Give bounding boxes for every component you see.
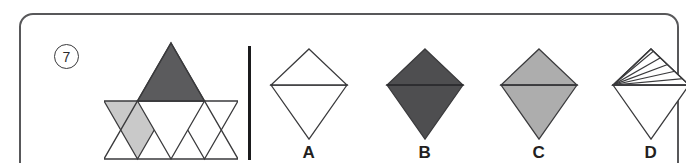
option-b-label: B <box>373 143 477 163</box>
answer-option-a[interactable]: A <box>257 43 361 163</box>
option-d-kite-shape <box>599 43 686 143</box>
option-c-bottom-triangle <box>501 85 577 139</box>
option-c-kite-shape <box>487 43 591 143</box>
option-a-kite-shape <box>257 43 361 143</box>
answer-option-b[interactable]: B <box>373 43 477 163</box>
answer-option-c[interactable]: C <box>487 43 591 163</box>
stimulus-cell-top <box>138 43 205 101</box>
option-a-bottom-triangle <box>271 85 347 139</box>
option-b-top-triangle <box>387 49 463 85</box>
section-divider <box>248 46 251 160</box>
stimulus-figure <box>104 41 238 161</box>
option-a-label: A <box>257 143 361 163</box>
option-a-top-triangle <box>271 49 347 85</box>
option-b-kite-shape <box>373 43 477 143</box>
question-card: 7 A <box>19 13 679 163</box>
option-b-bottom-triangle <box>387 85 463 139</box>
option-d-label: D <box>599 143 686 163</box>
option-c-label: C <box>487 143 591 163</box>
option-c-top-triangle <box>501 49 577 85</box>
answer-option-d[interactable]: D <box>599 43 686 163</box>
option-d-bottom-triangle <box>613 85 686 139</box>
question-number-badge: 7 <box>54 44 79 69</box>
